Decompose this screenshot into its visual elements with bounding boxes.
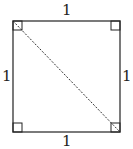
label-left: 1 <box>2 69 12 84</box>
label-right: 1 <box>122 69 132 84</box>
square-diagram <box>0 0 133 149</box>
right-angle-marker-bottom-left <box>13 123 22 132</box>
right-angle-marker-top-right <box>111 21 120 30</box>
label-top: 1 <box>62 3 72 18</box>
diagonal-line <box>13 21 120 132</box>
label-bottom: 1 <box>62 134 72 149</box>
